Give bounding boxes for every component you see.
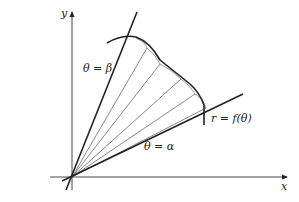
x-axis-label: x	[281, 181, 287, 192]
alpha-ray-label: θ = α	[144, 141, 174, 152]
ray-beta	[66, 12, 137, 190]
diagram-svg	[0, 0, 299, 202]
beta-ray-label: θ = β	[83, 63, 112, 74]
curve-label: r = f(θ)	[211, 113, 252, 124]
ray-alpha	[62, 94, 243, 181]
y-axis-label: y	[61, 8, 67, 19]
polar-area-diagram: y x θ = β θ = α r = f(θ)	[0, 0, 299, 202]
